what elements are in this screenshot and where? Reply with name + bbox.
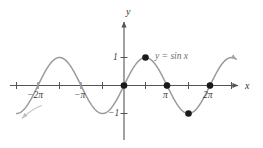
- x-tick-label-pi: π: [163, 91, 168, 101]
- y-tick-label-one: 1: [113, 53, 118, 63]
- marked-point: [164, 82, 171, 89]
- y-axis-label: y: [126, 7, 130, 17]
- marked-point: [121, 82, 128, 89]
- y-tick-label-neg-one: −1: [108, 109, 119, 119]
- marked-point: [207, 82, 214, 89]
- x-tick-label-2pi: 2π: [203, 91, 213, 101]
- marked-point: [142, 54, 149, 61]
- x-tick-label-neg-2pi: −2π: [27, 91, 43, 101]
- marked-point: [185, 110, 192, 117]
- plot-canvas: [0, 0, 263, 148]
- curve-equation-label: y = sin x: [155, 52, 188, 62]
- x-axis-label: x: [245, 81, 249, 91]
- x-tick-label-neg-pi: −π: [74, 91, 85, 101]
- sine-graph-figure: y x −2π −π π 2π 1 −1 y = sin x: [0, 0, 263, 148]
